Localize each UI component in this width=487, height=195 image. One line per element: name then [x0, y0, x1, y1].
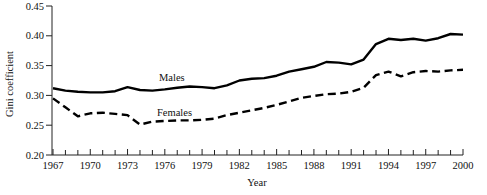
- axes: 0.200.250.300.350.400.451967197019731976…: [26, 1, 474, 172]
- males-line: [53, 34, 463, 92]
- x-tick-label: 2000: [453, 160, 474, 171]
- y-axis-title: Gini coefficient: [4, 51, 15, 117]
- x-tick-label: 1988: [303, 160, 324, 171]
- y-tick-label: 0.25: [26, 120, 44, 131]
- x-tick-label: 1979: [192, 160, 213, 171]
- x-tick-label: 1970: [80, 160, 101, 171]
- x-axis-title: Year: [247, 177, 267, 188]
- y-tick-label: 0.30: [26, 90, 44, 101]
- females-series-label: Females: [157, 107, 192, 118]
- series-lines: [53, 34, 463, 125]
- x-tick-label: 1991: [341, 160, 362, 171]
- x-tick-label: 1982: [229, 160, 250, 171]
- x-tick-label: 1973: [117, 160, 138, 171]
- x-tick-label: 1994: [378, 160, 400, 171]
- x-tick-label: 1985: [266, 160, 287, 171]
- x-tick-label: 1976: [154, 160, 175, 171]
- y-tick-label: 0.20: [26, 150, 44, 161]
- y-tick-label: 0.45: [26, 1, 44, 12]
- x-tick-label: 1967: [43, 160, 64, 171]
- y-tick-label: 0.40: [26, 30, 44, 41]
- gini-coefficient-line-chart: Gini coefficient Year Males Females 0.20…: [0, 0, 487, 195]
- y-tick-label: 0.35: [26, 60, 44, 71]
- males-series-label: Males: [159, 72, 185, 83]
- x-tick-label: 1997: [415, 160, 436, 171]
- plot-area: Gini coefficient Year Males Females 0.20…: [0, 0, 487, 195]
